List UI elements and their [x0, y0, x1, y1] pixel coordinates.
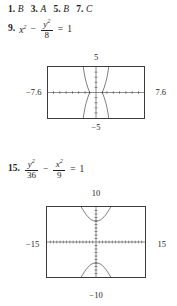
- right-hand-side: 1: [80, 164, 85, 174]
- problem-9-equation: 9. x2 − y2 8 = 1: [8, 18, 72, 40]
- answer-item-5: 5. B: [53, 4, 69, 14]
- equals-sign: =: [69, 164, 76, 174]
- answers-row: 1. B 3. A 5. B 7. C: [8, 4, 92, 14]
- x-exponent: 2: [23, 23, 26, 30]
- y-exponent: 2: [32, 157, 35, 164]
- answer-value: B: [63, 4, 69, 14]
- answer-value: B: [18, 4, 24, 14]
- problem-number: 9.: [8, 24, 15, 34]
- fraction-numerator: x2: [54, 158, 65, 170]
- answer-item-1: 1. B: [8, 4, 24, 14]
- equation-body: y2 36 − x2 9 = 1: [24, 158, 84, 180]
- fraction-denominator: 9: [55, 171, 64, 181]
- answer-number: 3.: [31, 4, 38, 14]
- y-max-label: 10: [92, 188, 101, 198]
- x-max-label: 15: [158, 239, 167, 249]
- calculator-window-15: [46, 206, 146, 278]
- answer-item-3: 3. A: [31, 4, 47, 14]
- y-min-label: −10: [89, 290, 102, 300]
- answer-value: C: [86, 4, 92, 14]
- graph-problem-15: 10 −10 −15 15: [26, 188, 166, 300]
- graph-problem-9: 5 −5 −7.6 7.6: [26, 52, 166, 132]
- answer-number: 7.: [76, 4, 83, 14]
- x-squared-over-9-fraction: x2 9: [53, 158, 65, 180]
- x-min-label: −15: [26, 239, 39, 249]
- fraction-denominator: 36: [25, 171, 38, 181]
- fraction-numerator: y2: [41, 18, 52, 30]
- x-max-label: 7.6: [155, 87, 166, 97]
- calculator-window-9: [47, 66, 145, 119]
- problem-number: 15.: [8, 164, 20, 174]
- equals-sign: =: [57, 24, 64, 34]
- right-hand-side: 1: [67, 24, 72, 34]
- answer-value: A: [41, 4, 47, 14]
- equation-body: x2 − y2 8 = 1: [19, 18, 72, 40]
- y-squared-over-8-fraction: y2 8: [41, 18, 53, 40]
- x-min-label: −7.6: [26, 87, 41, 97]
- fraction-denominator: 8: [43, 31, 52, 41]
- hyperbola-plot-15: [47, 207, 145, 277]
- problem-15-equation: 15. y2 36 − x2 9 = 1: [8, 158, 84, 180]
- minus-operator: −: [42, 164, 49, 174]
- answer-number: 1.: [8, 4, 15, 14]
- answer-item-7: 7. C: [76, 4, 92, 14]
- fraction-numerator: y2: [26, 158, 37, 170]
- answer-key-page: 1. B 3. A 5. B 7. C 9. x2 − y2 8 = 1: [0, 0, 177, 306]
- x-exponent: 2: [60, 157, 63, 164]
- y-max-label: 5: [94, 52, 98, 62]
- y-exponent: 2: [47, 17, 50, 24]
- hyperbola-plot-9: [48, 67, 144, 118]
- minus-operator: −: [29, 24, 36, 34]
- y-min-label: −5: [91, 122, 100, 132]
- y-squared-over-36-fraction: y2 36: [25, 158, 38, 180]
- answer-number: 5.: [53, 4, 60, 14]
- x-term: x2: [19, 23, 26, 35]
